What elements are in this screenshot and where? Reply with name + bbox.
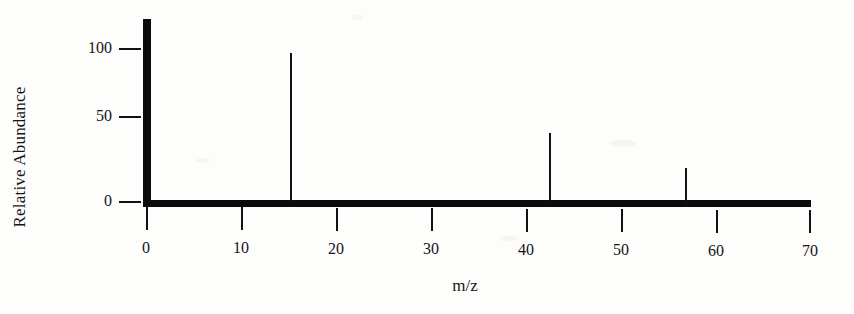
x-tick-mark-30 — [431, 208, 433, 231]
y-axis-line — [143, 19, 151, 205]
y-tick-label-0: 0 — [68, 192, 112, 210]
x-tick-label-30: 30 — [411, 240, 451, 258]
plot-area: 100 50 0 0 10 20 30 40 50 60 70 — [0, 0, 854, 314]
x-tick-label-70: 70 — [790, 242, 830, 260]
x-tick-label-40: 40 — [506, 241, 546, 259]
y-tick-mark-0 — [119, 201, 141, 203]
x-tick-mark-0 — [146, 207, 148, 230]
x-tick-label-10: 10 — [221, 239, 261, 257]
y-tick-mark-100 — [119, 48, 141, 50]
x-tick-label-0: 0 — [126, 239, 166, 257]
y-tick-mark-50 — [119, 116, 141, 118]
spectrum-peak-mz-15 — [290, 53, 292, 202]
x-tick-mark-60 — [716, 210, 718, 233]
x-tick-mark-70 — [809, 210, 811, 233]
spectrum-peak-mz-57 — [685, 168, 687, 204]
spectrum-peak-mz-43 — [549, 133, 551, 203]
x-axis-line — [143, 200, 811, 207]
x-tick-mark-10 — [241, 207, 243, 230]
y-tick-label-100: 100 — [68, 39, 112, 57]
x-tick-label-60: 60 — [696, 242, 736, 260]
y-tick-label-50: 50 — [68, 107, 112, 125]
x-tick-label-50: 50 — [601, 241, 641, 259]
mass-spectrum-figure: Relative Abundance m/z 100 50 0 0 10 20 … — [0, 0, 854, 314]
x-tick-mark-20 — [336, 208, 338, 231]
x-tick-mark-40 — [526, 209, 528, 232]
x-tick-mark-50 — [621, 209, 623, 232]
x-tick-label-20: 20 — [316, 240, 356, 258]
